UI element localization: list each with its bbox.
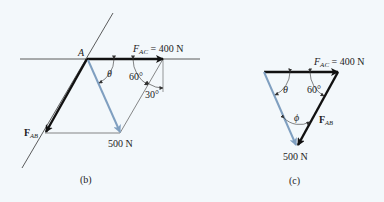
figure-b: A FAC = 400 N FAB 500 N θ 60° 30° (b) — [20, 13, 200, 186]
resultant-force-arrow-c — [264, 72, 296, 145]
figure-b-caption: (b) — [80, 174, 92, 186]
fab-force-arrow-c — [298, 72, 338, 145]
phi-label-c: ϕ — [294, 112, 299, 123]
theta-label: θ — [107, 68, 112, 79]
theta-label-c: θ — [283, 84, 288, 95]
sixty-label-c: 60° — [307, 84, 321, 95]
resultant-label-c: 500 N — [283, 151, 308, 162]
fac-label-c: FAC = 400 N — [313, 56, 364, 69]
figure-c: FAC = 400 N θ 60° ϕ FAB 500 N (c) — [264, 56, 364, 187]
resultant-force-arrow — [88, 60, 120, 132]
thirty-arc — [149, 84, 163, 88]
force-diagram: A FAC = 400 N FAB 500 N θ 60° 30° (b) FA… — [0, 0, 384, 202]
fab-label: FAB — [24, 127, 38, 139]
thirty-label: 30° — [145, 89, 159, 100]
fac-label: FAC = 400 N — [132, 43, 183, 56]
point-a-label: A — [77, 47, 85, 58]
resultant-label: 500 N — [108, 138, 133, 149]
fab-force-arrow — [46, 59, 87, 132]
inclined-member-line — [22, 13, 113, 168]
sixty-label: 60° — [129, 71, 143, 82]
figure-c-caption: (c) — [289, 175, 300, 187]
fab-label-c: FAB — [319, 114, 333, 126]
